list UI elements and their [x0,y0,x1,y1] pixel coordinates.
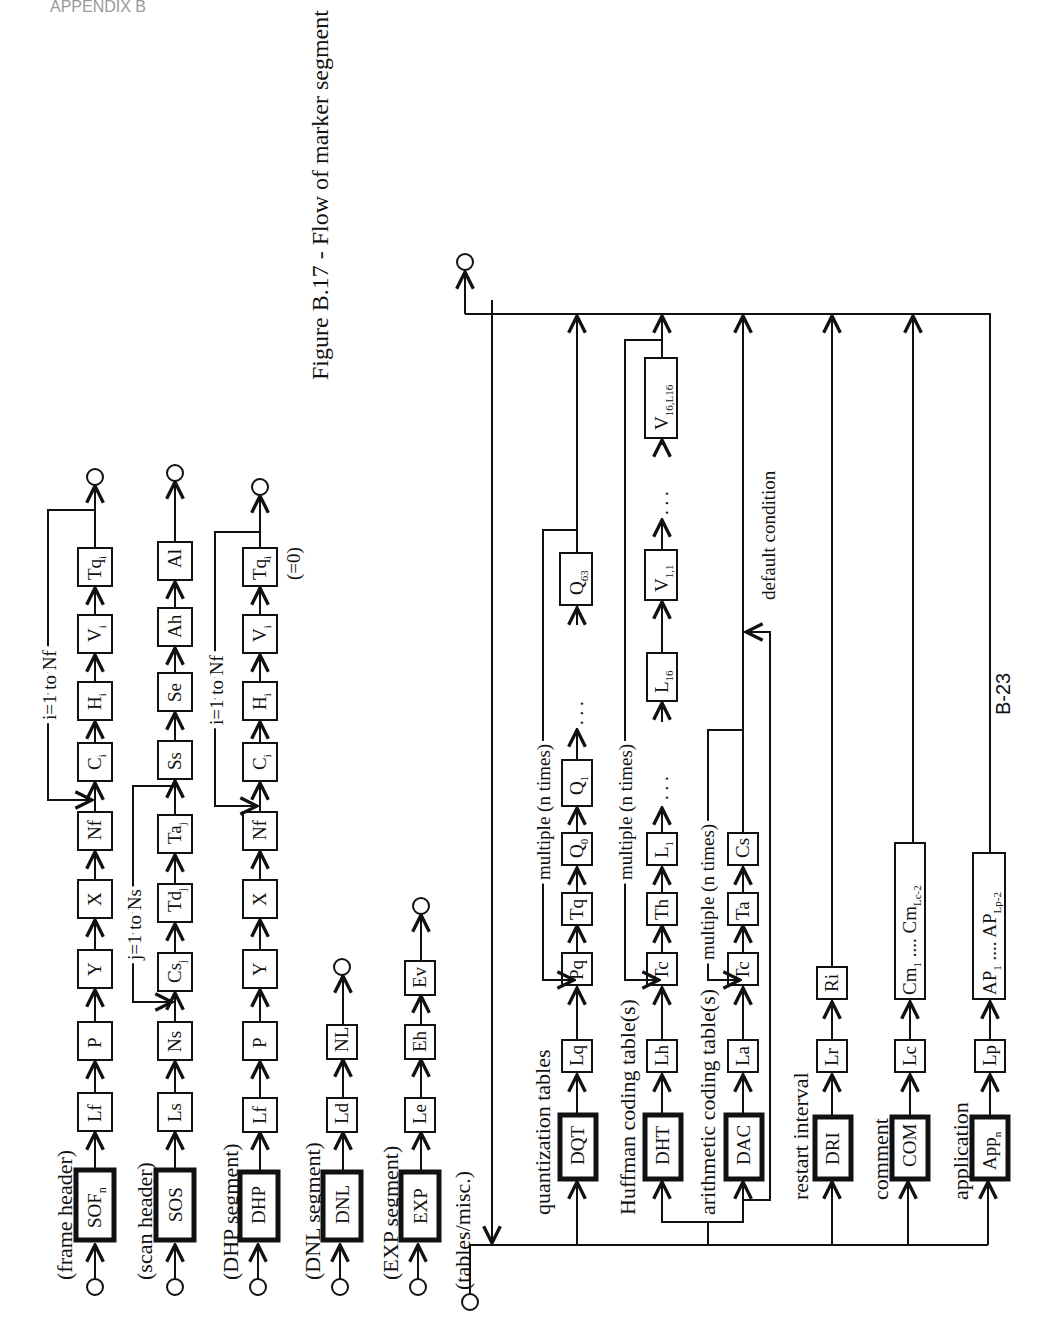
svg-text:Y: Y [84,962,105,976]
end-terminal-icon [252,479,268,495]
svg-text:DHP: DHP [248,1186,269,1224]
svg-text:Lr: Lr [821,1047,842,1066]
branch-comment: comment COM Lc Cm1 .... CmLc-2 [868,316,928,1245]
svg-text:P: P [84,1037,105,1048]
svg-text:COM: COM [899,1124,920,1167]
svg-text:Nf: Nf [249,819,270,840]
svg-text:Ns: Ns [164,1031,185,1052]
repeat-label: multiple (n times) [533,744,555,880]
svg-text:DAC: DAC [733,1125,754,1165]
page-header: APPENDIX B [50,0,146,15]
svg-text:Se: Se [164,683,185,702]
branch-label: Huffman coding table(s) [615,999,640,1215]
svg-text:Tc: Tc [651,961,672,980]
svg-text:Pq: Pq [566,959,587,980]
branch-restart-interval: restart interval DRI Lr Ri [788,316,851,1245]
svg-text:Lf: Lf [84,1103,105,1122]
svg-text:Nf: Nf [84,819,105,840]
start-terminal-icon [332,1279,348,1295]
svg-text:Cs: Cs [732,838,753,858]
row-label: (scan header) [132,1162,157,1280]
branch-label: quantization tables [530,1049,555,1215]
row-label: (tables/misc.) [450,1171,475,1290]
repeat-label: multiple (n times) [697,824,719,960]
svg-text:Y: Y [249,962,270,976]
row-label: (frame header) [52,1150,77,1280]
svg-text:La: La [732,1045,753,1066]
svg-text:Al: Al [164,549,185,568]
start-terminal-icon [87,1279,103,1295]
svg-text:Ld: Ld [331,1102,352,1124]
svg-text:DNL: DNL [332,1185,353,1224]
svg-text:DRI: DRI [822,1132,843,1165]
row-exp-segment: (EXP segment) EXP Le Eh Ev [378,898,439,1295]
svg-text:Tq: Tq [566,898,587,920]
end-terminal-icon [334,959,350,975]
svg-text:Lq: Lq [566,1044,587,1066]
end-terminal-icon [167,465,183,481]
svg-text:Ss: Ss [164,752,185,770]
page-number: B-23 [992,673,1014,715]
svg-text:Ri: Ri [821,974,842,992]
svg-text:Ah: Ah [164,614,185,638]
svg-text:Lf: Lf [249,1105,270,1124]
branch-label: arithmetic coding table(s) [695,989,720,1215]
row-scan-header: (scan header) SOS Ls Ns j=1 to Ns j=1 to… [124,465,194,1295]
svg-text:Tc: Tc [732,961,753,980]
svg-text:Ls: Ls [164,1103,185,1122]
branch-arithmetic: arithmetic coding table(s) DAC La Tc Ta … [695,316,779,1222]
svg-text:X: X [249,892,270,906]
start-terminal-icon [167,1279,183,1295]
row-dnl-segment: (DNL segment) DNL Ld NL [300,959,361,1295]
svg-text:Ev: Ev [409,966,430,988]
svg-text:Th: Th [651,898,672,920]
start-terminal-icon [410,1279,426,1295]
row-frame-header: (frame header) SOFn Lf P Y X Nf i=1 to N… [39,469,114,1295]
svg-text:Ta: Ta [732,901,753,920]
svg-text:Tqi: Tqi [84,556,108,580]
svg-text:Lc: Lc [899,1046,920,1066]
branch-label: comment [868,1118,893,1200]
svg-text:Lh: Lh [651,1044,672,1066]
figure-caption: Figure B.17 - Flow of marker segment [307,10,333,380]
start-terminal-icon [250,1279,266,1295]
marker-segment-flow-diagram: APPENDIX B Figure B.17 - Flow of marker … [0,0,1064,1319]
end-terminal-icon [87,469,103,485]
loop-label: j=1 to Ns [124,889,145,961]
zero-note: (=0) [283,547,305,580]
svg-text:SOS: SOS [165,1187,186,1222]
ellipsis: . . . [651,491,672,515]
end-terminal-icon [457,254,473,270]
svg-text:Csj: Csj [164,960,188,983]
svg-text:DQT: DQT [567,1126,588,1165]
svg-text:Tdj: Tdj [164,888,188,912]
branch-quantization: quantization tables DQT Lq Pq Tq Q0 Q1 .… [530,316,596,1245]
ellipsis: . . . [651,776,672,800]
branch-label: application [948,1102,973,1200]
row-tables-misc: (tables/misc.) quantization tables DQT L… [450,254,1008,1310]
svg-text:Lp: Lp [979,1045,1000,1066]
row-dhp-segment: (DHP segment) DHP Lf P Y X Nf i=1 to Nf … [206,479,305,1295]
default-condition-label: default condition [758,470,779,600]
svg-text:Eh: Eh [409,1030,430,1052]
branch-application: application Appn Lp AP1 .... APLp-2 [948,314,1008,1245]
svg-text:DHT: DHT [652,1126,673,1165]
svg-text:Taj: Taj [164,822,188,844]
ellipsis: . . . [566,701,587,725]
repeat-label: multiple (n times) [615,744,637,880]
svg-text:NL: NL [331,1027,352,1052]
branch-label: restart interval [788,1072,813,1200]
svg-text:EXP: EXP [410,1188,431,1224]
loop-label: i=1 to Nf [39,650,60,720]
loop-label: i=1 to Nf [206,655,227,725]
end-terminal-icon [413,898,429,914]
svg-text:P: P [249,1037,270,1048]
svg-text:Tqi: Tqi [249,556,273,580]
start-terminal-icon [462,1294,478,1310]
svg-text:Le: Le [409,1104,430,1124]
svg-text:X: X [84,892,105,906]
